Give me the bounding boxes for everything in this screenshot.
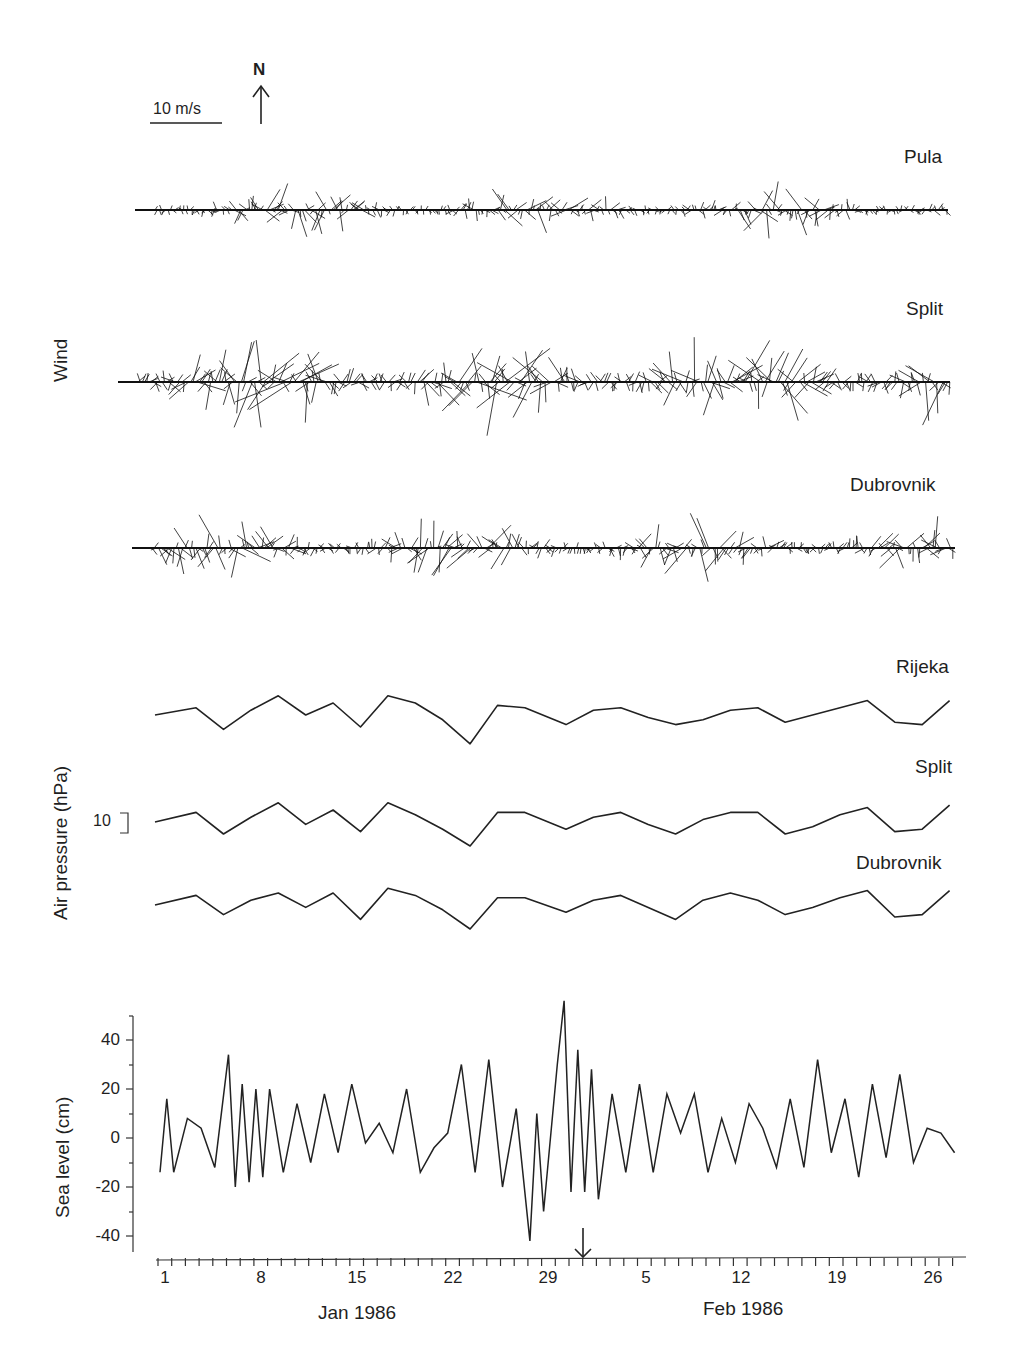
month-label-feb: Feb 1986 <box>703 1298 783 1320</box>
sea-level-axis-label: Sea level (cm) <box>52 1097 74 1218</box>
wind-station-dubrovnik: Dubrovnik <box>850 474 936 496</box>
wind-station-pula: Pula <box>904 146 942 168</box>
ytick-0: 0 <box>80 1128 120 1148</box>
ytick-20: 20 <box>80 1079 120 1099</box>
wind-axis-label: Wind <box>50 339 72 382</box>
pressure-scale-bracket <box>120 813 128 833</box>
pressure-scale-label: 10 <box>93 812 111 830</box>
pressure-lines <box>155 696 950 929</box>
pressure-line-dubrovnik <box>155 888 950 929</box>
pressure-line-split <box>155 803 950 846</box>
pressure-line-rijeka <box>155 696 950 744</box>
wind-stickplots <box>118 182 955 582</box>
xtick-feb-5: 5 <box>641 1268 650 1288</box>
ytick-neg40: -40 <box>80 1226 120 1246</box>
pressure-station-dubrovnik: Dubrovnik <box>856 852 942 874</box>
pressure-station-split: Split <box>915 756 952 778</box>
time-x-axis <box>156 1257 966 1266</box>
xtick-jan-8: 8 <box>256 1268 265 1288</box>
pressure-axis-label: Air pressure (hPa) <box>50 766 72 920</box>
north-arrow-icon <box>253 86 269 124</box>
xtick-jan-22: 22 <box>444 1268 463 1288</box>
event-arrow-icon <box>575 1228 591 1257</box>
north-label: N <box>253 60 265 80</box>
xtick-jan-29: 29 <box>539 1268 558 1288</box>
xtick-jan-1: 1 <box>160 1268 169 1288</box>
ytick-40: 40 <box>80 1030 120 1050</box>
pressure-station-rijeka: Rijeka <box>896 656 949 678</box>
xtick-feb-12: 12 <box>732 1268 751 1288</box>
month-label-jan: Jan 1986 <box>318 1302 396 1324</box>
scale-bar-label: 10 m/s <box>153 100 201 118</box>
ytick-neg20: -20 <box>80 1177 120 1197</box>
wind-station-split: Split <box>906 298 943 320</box>
xtick-feb-26: 26 <box>924 1268 943 1288</box>
xtick-jan-15: 15 <box>348 1268 367 1288</box>
sea-level-y-axis <box>126 1016 133 1252</box>
sea-level-line <box>160 1001 955 1241</box>
xtick-feb-19: 19 <box>828 1268 847 1288</box>
figure-canvas <box>0 0 1014 1364</box>
